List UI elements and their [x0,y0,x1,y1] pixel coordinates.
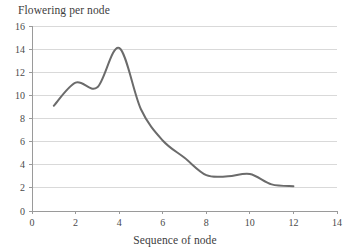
x-tick-label-10: 10 [245,217,255,228]
x-tick-label-2: 2 [73,217,78,228]
chart-container: Flowering per node 0246810121416 0246810… [0,0,350,251]
x-tick-label-4: 4 [117,217,122,228]
y-tick-label-6: 6 [20,136,25,147]
x-tick-label-14: 14 [332,217,342,228]
x-tick-label-0: 0 [30,217,35,228]
x-tick-label-8: 8 [204,217,209,228]
data-series-group [54,48,294,186]
x-axis-title: Sequence of node [0,233,350,247]
x-axis-tick-labels: 02468101214 [30,217,343,228]
chart-plot-svg: 0246810121416 02468101214 [0,0,350,251]
y-tick-label-2: 2 [20,182,25,193]
gridlines-horizontal [32,26,337,188]
y-tick-label-16: 16 [15,21,25,32]
y-tick-label-12: 12 [15,67,25,78]
y-tick-label-10: 10 [15,90,25,101]
y-tick-label-4: 4 [20,159,25,170]
x-tick-label-6: 6 [160,217,165,228]
x-tick-label-12: 12 [288,217,298,228]
y-tick-label-0: 0 [20,206,25,217]
y-tick-label-8: 8 [20,113,25,124]
y-axis-tick-labels: 0246810121416 [15,21,25,217]
y-tick-label-14: 14 [15,44,25,55]
series-line-0 [54,48,294,186]
